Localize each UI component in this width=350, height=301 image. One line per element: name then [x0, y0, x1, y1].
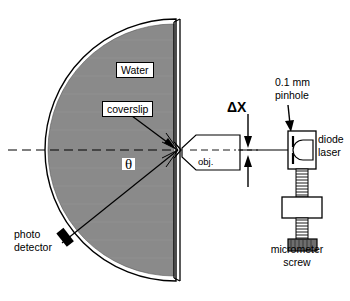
diode-laser-label-line1: diode: [318, 133, 344, 145]
theta-angle-label: θ: [122, 158, 135, 170]
diode-laser-housing: [288, 131, 316, 169]
micrometer-label-line2: screw: [283, 256, 310, 268]
figure-canvas: Water coverslip θ obj. ΔX 0.1 mm pinhole…: [0, 0, 350, 301]
diode-laser-label-line2: laser: [318, 146, 341, 158]
delta-x-label: ΔX: [227, 101, 246, 113]
photo-detector: [56, 228, 74, 247]
pinhole-arrow: [285, 105, 294, 132]
coverslip-label: coverslip: [102, 101, 153, 117]
thread-hatch-lower: [296, 220, 308, 238]
micrometer-label-line1: micrometer: [271, 243, 324, 255]
micrometer-screw-assembly: [282, 169, 322, 251]
pinhole-label: 0.1 mm pinhole: [275, 76, 310, 102]
micrometer-mount-block: [282, 197, 322, 218]
pinhole-label-line1: 0.1 mm: [275, 76, 310, 88]
objective-label: obj.: [198, 156, 213, 168]
diode-laser-label: diode laser: [318, 133, 344, 159]
water-label: Water: [116, 62, 154, 78]
micrometer-screw-label: micrometer screw: [259, 243, 335, 269]
photo-detector-label: photo detector: [14, 228, 52, 254]
photo-detector-label-line1: photo: [14, 228, 40, 240]
photo-detector-label-line2: detector: [14, 241, 52, 253]
pinhole-label-line2: pinhole: [275, 89, 309, 101]
